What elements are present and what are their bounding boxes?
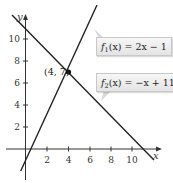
y-axis-arrow-icon (23, 14, 28, 20)
x-tick-label: 4 (66, 155, 72, 165)
f2-arg: (x) (109, 77, 122, 88)
y-tick-label: 10 (9, 34, 21, 44)
y-tick-label: 8 (14, 56, 20, 66)
f1-equation-label: f1(x) = 2x − 1 (96, 37, 172, 56)
intersection-label: (4, 7) (44, 66, 70, 77)
f2-equation-label: f2(x) = −x + 11 (96, 73, 173, 92)
x-tick-label: 10 (126, 155, 138, 165)
f2-rhs: = −x + 11 (121, 77, 173, 88)
f1-arg: (x) (109, 41, 122, 52)
y-tick-label: 2 (14, 122, 20, 132)
x-tick-label: 8 (108, 155, 114, 165)
y-tick-label: 6 (14, 78, 20, 88)
f1-rhs: = 2x − 1 (121, 41, 166, 52)
x-tick-label: 2 (44, 155, 50, 165)
y-tick-label: 4 (14, 100, 20, 110)
line-f1 (21, 5, 97, 171)
x-tick-label: 6 (87, 155, 93, 165)
